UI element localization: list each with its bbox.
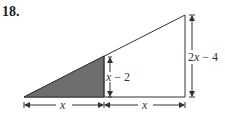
small-height-label: x − 2 (105, 70, 130, 84)
large-height-label: 2x − 4 (188, 50, 218, 64)
shaded-triangle (24, 56, 104, 97)
similar-triangles-diagram: x − 2 2x − 4 x x (0, 0, 225, 115)
base-left-label: x (59, 98, 66, 112)
base-right-label: x (141, 98, 148, 112)
